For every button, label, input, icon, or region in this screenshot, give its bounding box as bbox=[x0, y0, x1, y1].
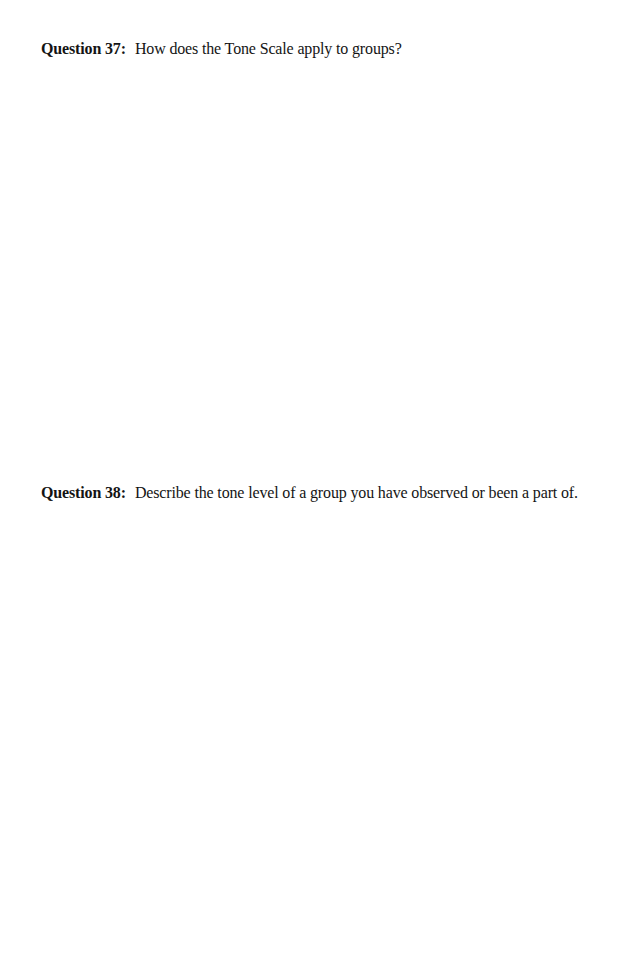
question-37-label: Question 37: bbox=[41, 40, 126, 57]
question-37: Question 37:How does the Tone Scale appl… bbox=[41, 39, 402, 59]
question-38: Question 38:Describe the tone level of a… bbox=[41, 483, 578, 503]
question-38-answer-space bbox=[41, 508, 601, 938]
question-37-answer-space bbox=[41, 64, 601, 474]
question-38-text: Describe the tone level of a group you h… bbox=[135, 484, 578, 501]
question-38-label: Question 38: bbox=[41, 484, 126, 501]
question-37-text: How does the Tone Scale apply to groups? bbox=[135, 40, 402, 57]
